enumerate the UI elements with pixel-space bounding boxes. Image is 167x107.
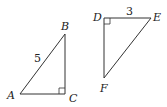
triangle-abc-outline <box>20 34 65 94</box>
right-angle-marker-c <box>59 88 65 94</box>
triangle-abc: A B C 5 <box>6 20 78 105</box>
vertex-label-b: B <box>60 20 69 33</box>
triangle-def: D E F 3 <box>92 5 161 95</box>
vertex-label-d: D <box>92 11 102 24</box>
vertex-label-c: C <box>69 92 78 105</box>
vertex-label-e: E <box>152 11 161 24</box>
vertex-label-a: A <box>6 89 15 102</box>
right-angle-marker-d <box>104 18 110 24</box>
triangle-def-outline <box>104 18 151 78</box>
side-label-de: 3 <box>126 5 133 18</box>
side-label-ab: 5 <box>34 52 41 65</box>
vertex-label-f: F <box>99 82 108 95</box>
triangles-diagram: A B C 5 D E F 3 <box>0 0 167 107</box>
